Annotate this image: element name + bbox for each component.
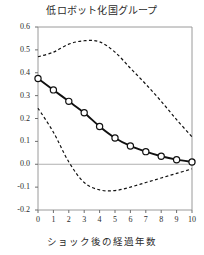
y-tick-label: -0.1	[2, 183, 30, 191]
x-tick-label: 9	[170, 216, 184, 224]
x-tick-label: 8	[154, 216, 168, 224]
y-tick-label: 0.5	[2, 46, 30, 54]
x-axis-title: ショック後の経過年数	[0, 234, 204, 248]
upper-confidence-band	[38, 40, 192, 136]
x-tick-label: 0	[31, 216, 45, 224]
x-tick-label: 10	[185, 216, 199, 224]
point-estimate-line	[38, 78, 192, 161]
y-tick-label: 0.4	[2, 69, 30, 77]
lower-confidence-band	[38, 108, 192, 191]
point-estimate-markers	[35, 75, 195, 165]
y-tick-label: 0.1	[2, 137, 30, 145]
y-tick-label: 0.2	[2, 115, 30, 123]
y-tick-label: 0.6	[2, 23, 30, 31]
y-tick-label: 0.0	[2, 160, 30, 168]
y-tick-label: -0.2	[2, 206, 30, 214]
plot-frame	[38, 27, 192, 210]
x-tick-label: 1	[46, 216, 60, 224]
x-tick-label: 6	[123, 216, 137, 224]
x-tick-label: 7	[139, 216, 153, 224]
x-tick-label: 3	[77, 216, 91, 224]
chart-figure: 低ロボット化国グループ 0.60.50.40.30.20.10.0-0.1-0.…	[0, 0, 204, 255]
y-tick-label: 0.3	[2, 92, 30, 100]
axis-ticks	[35, 27, 192, 213]
x-tick-label: 5	[108, 216, 122, 224]
x-tick-label: 2	[62, 216, 76, 224]
x-tick-label: 4	[93, 216, 107, 224]
